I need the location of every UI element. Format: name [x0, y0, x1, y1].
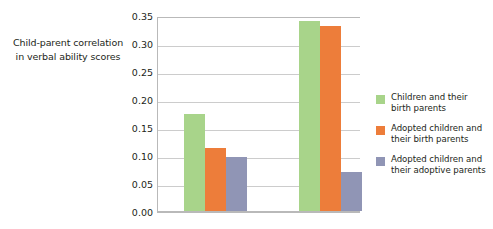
y-tick-label: 0.15	[119, 124, 153, 134]
y-tick-label: 0.05	[119, 180, 153, 190]
legend-label: Children and theirbirth parents	[391, 92, 493, 114]
bar-group	[184, 15, 248, 211]
legend-swatch-icon	[376, 157, 385, 166]
legend-item[interactable]: Children and theirbirth parents	[376, 92, 493, 114]
y-tick-label: 0.10	[119, 152, 153, 162]
legend-label-line: Adopted children and	[391, 154, 493, 165]
y-axis-label-line-2: in verbal ability scores	[4, 50, 132, 64]
legend-label-line: Children and their	[391, 92, 493, 103]
y-axis-label-line-1: Child-parent correlation	[4, 36, 132, 50]
y-tick-label: 0.25	[119, 68, 153, 78]
bar	[299, 21, 320, 211]
bar	[320, 26, 341, 211]
chart-legend: Children and theirbirth parentsAdopted c…	[376, 92, 493, 185]
legend-swatch-icon	[376, 126, 385, 135]
legend-label: Adopted children andtheir adoptive paren…	[391, 154, 493, 176]
legend-label-line: their adoptive parents	[391, 165, 493, 176]
bar-group	[299, 15, 363, 211]
legend-label: Adopted children andtheir birth parents	[391, 123, 493, 145]
bar	[184, 114, 205, 211]
legend-item[interactable]: Adopted children andtheir birth parents	[376, 123, 493, 145]
y-tick-label: 0.20	[119, 96, 153, 106]
legend-label-line: birth parents	[391, 103, 493, 114]
plot-area	[157, 17, 360, 213]
y-tick-label: 0.30	[119, 40, 153, 50]
legend-swatch-icon	[376, 95, 385, 104]
legend-label-line: Adopted children and	[391, 123, 493, 134]
y-axis-tick-labels: 0.350.300.250.200.150.100.050.00	[117, 17, 153, 213]
bar	[226, 157, 247, 211]
y-axis-label: Child-parent correlation in verbal abili…	[4, 36, 132, 63]
legend-item[interactable]: Adopted children andtheir adoptive paren…	[376, 154, 493, 176]
bar	[205, 148, 226, 211]
bar	[341, 172, 362, 211]
y-tick-label: 0.35	[119, 12, 153, 22]
y-tick-label: 0.00	[119, 208, 153, 218]
legend-label-line: their birth parents	[391, 134, 493, 145]
bar-chart-figure: Child-parent correlation in verbal abili…	[0, 0, 493, 229]
